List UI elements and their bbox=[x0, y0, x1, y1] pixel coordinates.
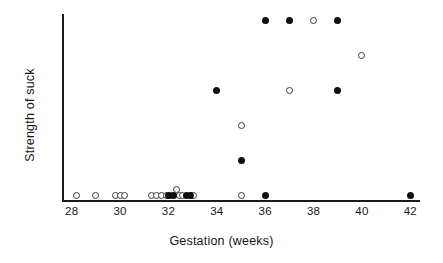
scatter-plot-figure: 2830323436384042 012345 Gestation (weeks… bbox=[0, 0, 443, 263]
y-axis-title: Strength of suck bbox=[23, 25, 37, 205]
y-tick-labels: 012345 bbox=[0, 0, 443, 263]
x-axis-title: Gestation (weeks) bbox=[0, 234, 443, 248]
